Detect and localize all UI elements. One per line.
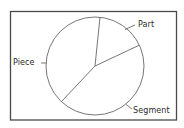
slice-label-piece: Piece [13,59,35,67]
pie-diagram-figure: Part Piece Segment [0,0,184,128]
slice-label-part: Part [138,21,154,29]
slice-label-segment: Segment [133,107,170,115]
